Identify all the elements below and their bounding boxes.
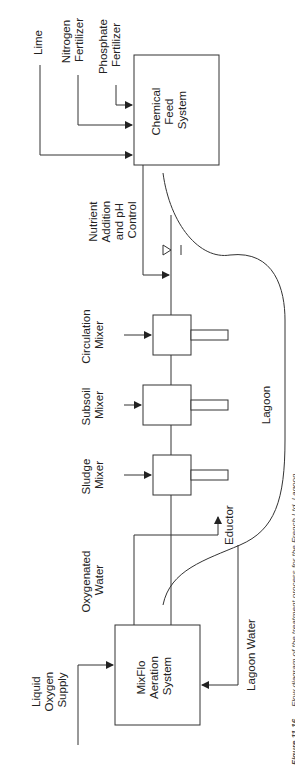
subsoil-mixer-label: Subsoil Mixer xyxy=(80,385,105,426)
lagoon-water-label: Lagoon Water xyxy=(245,619,257,691)
lime-label: Lime xyxy=(32,30,44,55)
circulation-mixer-label: Circulation Mixer xyxy=(80,306,105,364)
nitrogen-label: Nitrogen Fertilizer xyxy=(60,17,85,64)
water-level-icon xyxy=(163,245,171,255)
lagoon-label: Lagoon xyxy=(260,386,272,424)
flow-diagram: Chemical Feed System Lime Nitrogen Ferti… xyxy=(0,0,295,769)
liquid-oxygen-line xyxy=(78,665,113,745)
figure-caption: Figure 11.16 Flow diagram of the treatme… xyxy=(290,471,295,765)
lime-feed-line xyxy=(40,65,132,155)
liquid-oxygen-label: Liquid Oxygen Supply xyxy=(30,669,68,712)
phosphate-label: Phosphate Fertilizer xyxy=(97,16,122,74)
nitrogen-feed-line xyxy=(78,75,132,125)
sludge-mixer-label: Sludge Mixer xyxy=(80,455,105,494)
circulation-mixer xyxy=(124,315,228,355)
sludge-mixer xyxy=(124,455,228,495)
lagoon-water-line xyxy=(202,545,238,685)
oxygenated-water-label: Oxygenated Water xyxy=(80,547,105,612)
mixflo-aeration-label: MixFlo Aeration System xyxy=(135,653,173,699)
eductor-label: Eductor xyxy=(223,505,235,545)
phosphate-feed-line xyxy=(116,85,132,105)
nutrient-label: Nutrient Addition and pH Control xyxy=(87,198,138,243)
nutrient-feed-line xyxy=(143,165,169,275)
subsoil-mixer xyxy=(124,385,228,425)
oxygenated-water-line xyxy=(134,517,218,625)
